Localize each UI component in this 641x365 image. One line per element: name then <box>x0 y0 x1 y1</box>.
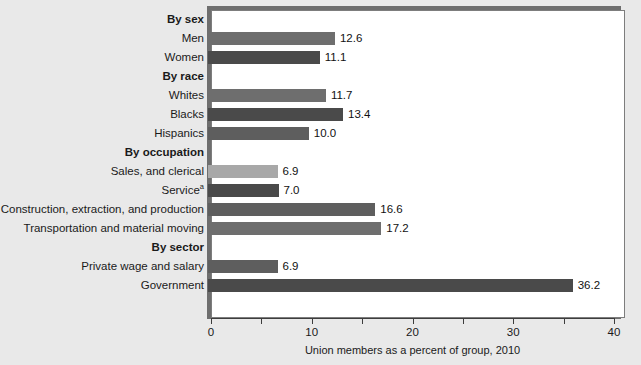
x-axis-tick-label: 10 <box>305 326 318 338</box>
bar-zone: 7.0 <box>208 181 641 200</box>
group-heading-row: By occupation <box>0 143 641 162</box>
bar-row-label-text: Service <box>161 184 199 196</box>
group-heading-label: By sector <box>0 241 208 254</box>
group-heading-row: By sector <box>0 238 641 257</box>
bar-value-label: 6.9 <box>283 164 299 178</box>
bar-value-label: 16.6 <box>380 202 402 216</box>
bar-row-label: Hispanics <box>0 127 208 140</box>
bar-value-label: 7.0 <box>284 183 300 197</box>
bar-row-label: Whites <box>0 89 208 102</box>
bar-row-label: Government <box>0 279 208 292</box>
bar-row: Transportation and material moving17.2 <box>0 219 641 238</box>
group-heading-spacer <box>208 10 641 29</box>
bar <box>208 260 278 273</box>
group-heading-spacer <box>208 238 641 257</box>
bar-row: Servicea7.0 <box>0 181 641 200</box>
group-heading-row: By race <box>0 67 641 86</box>
bar-zone: 11.1 <box>208 48 641 67</box>
bar-row: Blacks13.4 <box>0 105 641 124</box>
bar-value-label: 11.7 <box>331 88 353 102</box>
bar-value-label: 12.6 <box>340 31 362 45</box>
bar-row-label: Women <box>0 51 208 64</box>
x-axis: 010203040 Union members as a percent of … <box>211 318 625 364</box>
bar <box>208 89 326 102</box>
bar-zone: 6.9 <box>208 162 641 181</box>
x-axis-tick-label: 30 <box>507 326 520 338</box>
bar-row-label-text: Whites <box>169 89 204 101</box>
x-axis-tick <box>261 318 262 324</box>
x-axis-tick-label: 40 <box>608 326 621 338</box>
bar-row-label-text: Private wage and salary <box>81 260 204 272</box>
chart-figure: By sexMen12.6Women11.1By raceWhites11.7B… <box>0 0 641 365</box>
x-axis-tick <box>463 318 464 324</box>
bar-row-label-text: Transportation and material moving <box>24 222 204 234</box>
bar-zone: 13.4 <box>208 105 641 124</box>
bar-row-label-text: Government <box>141 279 204 291</box>
bar-row-label: Private wage and salary <box>0 260 208 273</box>
bar-rows-container: By sexMen12.6Women11.1By raceWhites11.7B… <box>0 10 641 318</box>
group-heading-label: By race <box>0 70 208 83</box>
bar-value-label: 13.4 <box>348 107 370 121</box>
bar-row: Whites11.7 <box>0 86 641 105</box>
bar-row-label-text: Sales, and clerical <box>111 165 204 177</box>
x-axis-tick-label: 0 <box>208 326 214 338</box>
bar-value-label: 11.1 <box>325 50 347 64</box>
bar-row: Women11.1 <box>0 48 641 67</box>
bar-row-label: Men <box>0 32 208 45</box>
bar-row-label: Servicea <box>0 184 208 197</box>
bar-row: Sales, and clerical6.9 <box>0 162 641 181</box>
group-heading-spacer <box>208 143 641 162</box>
bar <box>208 51 320 64</box>
bar-zone: 16.6 <box>208 200 641 219</box>
bar-row: Government36.2 <box>0 276 641 295</box>
x-axis-tick <box>513 318 514 324</box>
x-axis-tick <box>312 318 313 324</box>
bar <box>208 184 279 197</box>
bar <box>208 279 573 292</box>
group-heading-label: By occupation <box>0 146 208 159</box>
bar <box>208 108 343 121</box>
bar-row-label-text: Women <box>165 51 204 63</box>
group-heading-label: By sex <box>0 13 208 26</box>
bar-zone: 6.9 <box>208 257 641 276</box>
x-axis-tick <box>564 318 565 324</box>
bar-zone: 12.6 <box>208 29 641 48</box>
bar <box>208 203 375 216</box>
x-axis-title: Union members as a percent of group, 201… <box>211 344 614 356</box>
bar-value-label: 17.2 <box>386 221 408 235</box>
bar-row-label-text: Men <box>182 32 204 44</box>
x-axis-tick <box>413 318 414 324</box>
bar-row-label-text: Hispanics <box>154 127 204 139</box>
bar-row: Private wage and salary6.9 <box>0 257 641 276</box>
bar <box>208 165 278 178</box>
bar-zone: 11.7 <box>208 86 641 105</box>
bar-row-label: Sales, and clerical <box>0 165 208 178</box>
bar <box>208 127 309 140</box>
group-heading-row: By sex <box>0 10 641 29</box>
bar-value-label: 10.0 <box>314 126 336 140</box>
bar-value-label: 6.9 <box>283 259 299 273</box>
bar-row: Men12.6 <box>0 29 641 48</box>
bar-zone: 17.2 <box>208 219 641 238</box>
bar-row: Hispanics10.0 <box>0 124 641 143</box>
group-heading-spacer <box>208 67 641 86</box>
bar-zone: 10.0 <box>208 124 641 143</box>
bar-row-label-text: Blacks <box>170 108 204 120</box>
x-axis-tick <box>211 318 212 324</box>
bar <box>208 32 335 45</box>
bar-row-label-text: Construction, extraction, and production <box>1 203 204 215</box>
x-axis-tick <box>614 318 615 324</box>
footnote-marker: a <box>200 182 204 191</box>
bar-zone: 36.2 <box>208 276 641 295</box>
x-axis-tick <box>362 318 363 324</box>
bar-row-label: Blacks <box>0 108 208 121</box>
bar-row-label: Construction, extraction, and production <box>0 203 208 216</box>
bar-row: Construction, extraction, and production… <box>0 200 641 219</box>
bar-value-label: 36.2 <box>578 278 600 292</box>
x-axis-tick-label: 20 <box>406 326 419 338</box>
bar <box>208 222 381 235</box>
bar-row-label: Transportation and material moving <box>0 222 208 235</box>
